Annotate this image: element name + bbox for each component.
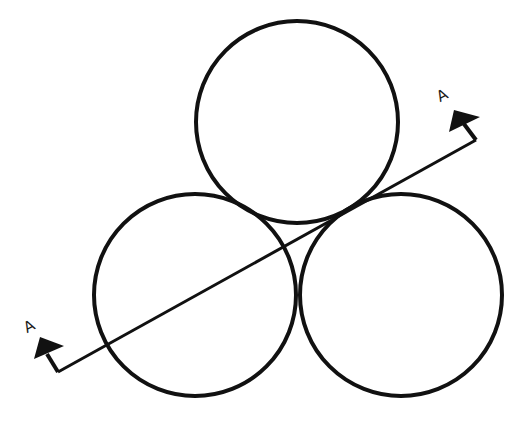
- marker-stem: [47, 354, 58, 372]
- section-marker-top-right: A: [433, 85, 480, 140]
- marker-stem: [464, 124, 476, 140]
- section-line: [58, 140, 476, 372]
- section-diagram: A A: [0, 0, 532, 421]
- circle-bottom-right: [300, 194, 502, 396]
- section-marker-bottom-left: A: [20, 316, 64, 372]
- section-label: A: [20, 316, 38, 337]
- section-label: A: [433, 85, 451, 106]
- circle-top: [196, 21, 398, 223]
- arrowhead-icon: [449, 110, 480, 132]
